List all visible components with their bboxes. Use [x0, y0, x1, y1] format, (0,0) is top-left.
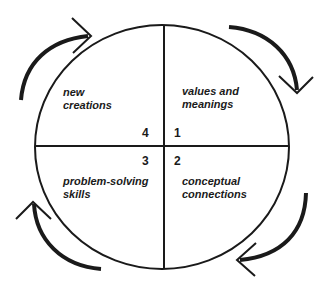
quadrant-3-number: 3 [142, 154, 149, 168]
quadrant-2-label-line2: connections [182, 188, 247, 200]
quadrant-4-number: 4 [142, 126, 149, 140]
cycle-diagram: new creations 4 values and meanings 1 3 … [0, 0, 328, 297]
quadrant-1-label-line1: values and [182, 85, 239, 97]
quadrant-3-label-line2: skills [63, 188, 91, 200]
quadrant-3-label-line1: problem-solving [62, 175, 149, 187]
quadrant-2-label-line1: conceptual [182, 175, 241, 187]
quadrant-2: 2 conceptual connections [174, 154, 247, 200]
arrow-bottom-right-icon [237, 193, 306, 276]
quadrant-1-label-line2: meanings [182, 98, 233, 110]
quadrant-4-label-line1: new [63, 86, 86, 98]
quadrant-4: new creations 4 [63, 86, 149, 140]
quadrant-3: 3 problem-solving skills [62, 154, 149, 200]
arrow-bottom-left-icon [16, 202, 101, 269]
quadrant-2-number: 2 [174, 154, 181, 168]
quadrant-1: values and meanings 1 [174, 85, 239, 140]
quadrant-4-label-line2: creations [63, 99, 112, 111]
quadrant-1-number: 1 [174, 126, 181, 140]
